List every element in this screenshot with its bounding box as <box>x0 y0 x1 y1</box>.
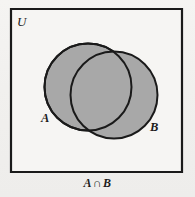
venn-diagram-canvas <box>0 0 195 197</box>
universal-set-label: U <box>17 15 26 28</box>
intersection-operator: ∩ <box>92 176 103 190</box>
set-b-circle <box>71 52 158 139</box>
venn-diagram-figure: U A B A∩B <box>0 0 195 197</box>
caption-operand-right: B <box>103 176 112 190</box>
caption-operand-left: A <box>83 176 92 190</box>
set-a-label: A <box>41 112 49 125</box>
set-b-label: B <box>150 121 158 134</box>
figure-caption: A∩B <box>0 176 195 191</box>
